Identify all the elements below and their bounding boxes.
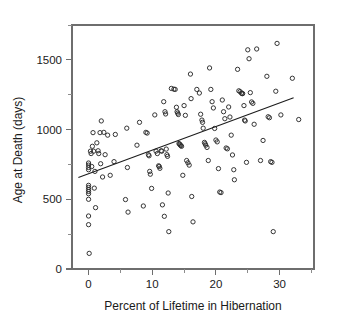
data-point	[106, 133, 110, 137]
x-tick-label: 10	[146, 278, 159, 290]
data-point	[230, 153, 234, 157]
data-point	[228, 115, 232, 119]
y-tick-label: 1000	[36, 124, 62, 136]
data-point	[189, 96, 193, 100]
data-point	[201, 126, 205, 130]
data-point	[97, 151, 101, 155]
data-points-group	[86, 41, 300, 255]
data-point	[255, 47, 259, 51]
data-point	[279, 113, 283, 117]
plot-frame	[72, 25, 314, 269]
data-point	[149, 186, 153, 190]
data-point	[211, 106, 215, 110]
data-point	[229, 133, 233, 137]
data-point	[242, 103, 246, 107]
data-point	[197, 91, 201, 95]
data-point	[232, 178, 236, 182]
data-point	[261, 138, 265, 142]
data-point	[135, 143, 139, 147]
data-point	[247, 57, 251, 61]
data-point	[216, 166, 220, 170]
data-point	[99, 119, 103, 123]
data-point	[100, 175, 104, 179]
data-point	[207, 66, 211, 70]
data-point	[225, 147, 229, 151]
data-point	[267, 116, 271, 120]
regression-line	[78, 98, 293, 178]
data-point	[162, 214, 166, 218]
data-point	[210, 100, 214, 104]
data-point	[92, 186, 96, 190]
data-point	[99, 162, 103, 166]
data-point	[90, 144, 94, 148]
data-point	[153, 113, 157, 117]
data-point	[164, 147, 168, 151]
y-axis-title: Age at Death (days)	[11, 97, 25, 204]
data-point	[108, 173, 112, 177]
data-point	[95, 141, 99, 145]
data-point	[87, 251, 91, 255]
data-point	[162, 100, 166, 104]
data-point	[86, 223, 90, 227]
data-point	[221, 110, 225, 114]
data-point	[93, 206, 97, 210]
data-point	[182, 103, 186, 107]
data-point	[167, 229, 171, 233]
data-point	[265, 74, 269, 78]
data-point	[223, 117, 227, 121]
data-point	[160, 203, 164, 207]
data-point	[123, 197, 127, 201]
data-point	[275, 41, 279, 45]
data-point	[148, 172, 152, 176]
x-axis-title: Percent of Lifetime in Hibernation	[104, 299, 281, 313]
regression-line-segment	[78, 98, 293, 178]
y-tick-label: 500	[43, 193, 62, 205]
x-tick-label: 20	[210, 278, 223, 290]
data-point	[125, 126, 129, 130]
data-point	[126, 210, 130, 214]
data-point	[183, 113, 187, 117]
axes-group	[72, 25, 314, 269]
data-point	[125, 165, 129, 169]
data-point	[274, 89, 278, 93]
data-point	[91, 130, 95, 134]
y-tick-label: 1500	[36, 54, 62, 66]
data-point	[174, 105, 178, 109]
scatter-plot-figure: 0102030050010001500 Percent of Lifetime …	[0, 0, 338, 322]
data-point	[252, 122, 256, 126]
data-point	[141, 204, 145, 208]
data-point	[220, 98, 224, 102]
y-tick-label: 0	[56, 263, 62, 275]
data-point	[244, 160, 248, 164]
data-point	[232, 168, 236, 172]
data-point	[258, 158, 262, 162]
data-point	[86, 214, 90, 218]
data-point	[166, 191, 170, 195]
data-point	[190, 194, 194, 198]
data-point	[188, 72, 192, 76]
data-point	[246, 48, 250, 52]
tick-marks-group	[66, 25, 311, 275]
data-point	[297, 117, 301, 121]
plot-canvas: 0102030050010001500 Percent of Lifetime …	[0, 0, 338, 322]
data-point	[181, 173, 185, 177]
data-point	[86, 197, 90, 201]
tick-labels-group: 0102030050010001500	[36, 54, 286, 290]
data-point	[235, 67, 239, 71]
data-point	[191, 220, 195, 224]
x-tick-label: 0	[85, 278, 91, 290]
data-point	[206, 158, 210, 162]
data-point	[290, 76, 294, 80]
data-point	[137, 120, 141, 124]
x-tick-label: 30	[273, 278, 286, 290]
data-point	[209, 87, 213, 91]
data-point	[248, 90, 252, 94]
data-point	[103, 153, 107, 157]
data-point	[113, 132, 117, 136]
data-point	[271, 229, 275, 233]
data-point	[227, 105, 231, 109]
data-point	[198, 112, 202, 116]
